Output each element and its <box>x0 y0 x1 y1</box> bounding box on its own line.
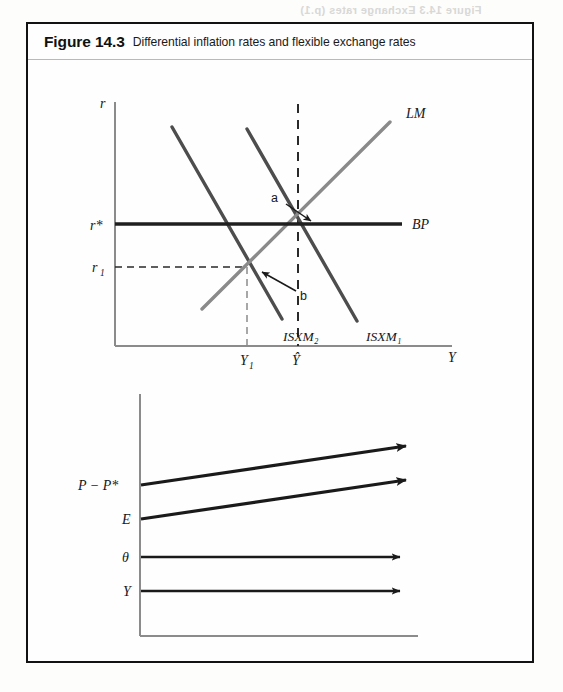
lower-chart: P − P* E θ Y <box>77 394 418 636</box>
point-label-a: a <box>271 191 278 205</box>
tick-y1-sub: 1 <box>249 361 254 371</box>
page-canvas: Figure 14.3 Exchange rates (p.1) Figure … <box>0 0 563 692</box>
upper-chart: LM BP ISXM₂ ISXM₁ a b r Y r* r 1 <box>90 96 458 371</box>
arrow-p-minus-pstar <box>141 446 406 485</box>
figure-frame: Figure 14.3 Differential inflation rates… <box>26 22 534 663</box>
figure-svg: LM BP ISXM₂ ISXM₁ a b r Y r* r 1 <box>28 60 532 661</box>
tick-r1-sub: 1 <box>100 268 105 278</box>
scan-artifact-header: Figure 14.3 Exchange rates (p.1) <box>300 4 482 16</box>
tick-r1-base: r <box>92 260 98 275</box>
label-isxm1: ISXM₁ <box>365 329 401 344</box>
annotation-arrow-b <box>262 272 296 291</box>
label-p-minus-pstar: P − P* <box>77 478 118 493</box>
tick-r-star: r* <box>90 218 102 233</box>
figure-caption: Figure 14.3 Differential inflation rates… <box>28 24 532 60</box>
curve-lm <box>202 122 390 309</box>
upper-x-axis-label: Y <box>448 350 458 365</box>
figure-number: Figure 14.3 <box>44 33 125 51</box>
label-theta: θ <box>122 550 129 565</box>
figure-plots: LM BP ISXM₂ ISXM₁ a b r Y r* r 1 <box>28 60 532 661</box>
tick-y1: Y 1 <box>240 353 254 371</box>
tick-yhat: Ŷ <box>292 352 302 368</box>
label-lm: LM <box>405 106 427 121</box>
arrow-e <box>141 480 406 519</box>
point-label-b: b <box>300 289 307 303</box>
figure-title: Differential inflation rates and flexibl… <box>133 35 416 49</box>
label-isxm2: ISXM₂ <box>282 329 319 344</box>
upper-y-axis-label: r <box>100 96 106 111</box>
label-e: E <box>121 512 131 527</box>
label-bp: BP <box>412 217 430 232</box>
label-lower-y: Y <box>123 584 133 599</box>
tick-r1: r 1 <box>92 260 105 278</box>
